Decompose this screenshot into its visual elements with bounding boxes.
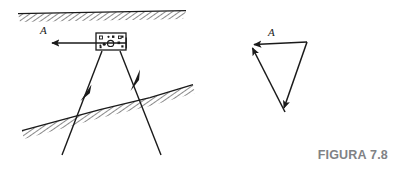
figure-caption: FIGURA 7.8 [318, 148, 388, 162]
right-diagram: A [253, 26, 308, 112]
edge-left-upward [253, 48, 286, 112]
figure-drawing: A A [0, 0, 394, 170]
right-vector-label: A [267, 26, 275, 38]
edge-right-downward [284, 42, 307, 108]
left-vector-label: A [39, 24, 47, 36]
ground-surface-hatched-band [18, 11, 186, 22]
instrument-box [96, 33, 126, 50]
edge-top-resultant [254, 42, 307, 45]
dipping-interface-hatched-band [22, 85, 195, 139]
figure-container: A A FIGURA 7.8 [0, 0, 394, 170]
left-diagram: A [18, 11, 195, 155]
ray-left-downward [62, 51, 102, 155]
ray-left-arrowhead [81, 85, 92, 102]
